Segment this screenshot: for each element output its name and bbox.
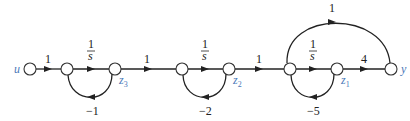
- gain-n1-z3-den: s: [88, 49, 93, 63]
- node-n2: [176, 63, 188, 75]
- edge-feedback-z2-n2: [183, 74, 226, 97]
- gain-n2-z2-den: s: [202, 49, 207, 63]
- gain-feedback-z3: −1: [86, 104, 99, 118]
- signal-flow-graph: u z3 z2 z1 y 1 1 s −1 1 1 s −2 1 1 s −5 …: [0, 0, 410, 121]
- edge-feedback-z3-n1: [68, 74, 112, 97]
- gain-z1-y: 4: [361, 52, 367, 66]
- label-u: u: [14, 62, 20, 76]
- gain-feedback-z1: −5: [307, 104, 320, 118]
- label-z1: z1: [340, 73, 350, 89]
- gain-n3-z1-den: s: [310, 49, 315, 63]
- node-n1: [61, 63, 73, 75]
- gain-z2-n3: 1: [256, 52, 262, 66]
- label-y: y: [400, 62, 407, 76]
- node-y: [385, 63, 397, 75]
- node-u: [24, 63, 36, 75]
- gain-feedback-z2: −2: [199, 104, 212, 118]
- gain-z3-n2: 1: [144, 52, 150, 66]
- edge-feedback-z1-n3: [291, 74, 334, 97]
- edge-feedforward-n3-y: [287, 23, 390, 63]
- gain-u-n1: 1: [45, 52, 51, 66]
- node-n3: [284, 63, 296, 75]
- gain-feedforward: 1: [329, 1, 335, 15]
- label-z2: z2: [232, 73, 242, 89]
- label-z3: z3: [118, 73, 128, 89]
